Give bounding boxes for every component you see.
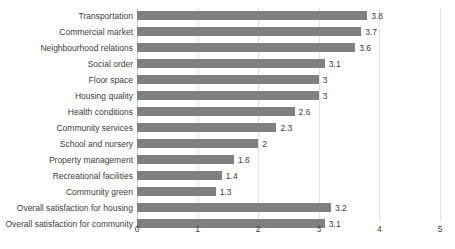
x-tick-label: 0 xyxy=(135,222,140,236)
bar-value-label: 3.7 xyxy=(365,24,377,40)
category-label: Neighbourhood relations xyxy=(0,40,133,56)
bar-row: 3 xyxy=(137,72,440,88)
bar xyxy=(137,43,355,52)
bar xyxy=(137,75,319,84)
category-label: Community services xyxy=(0,120,133,136)
bar-value-label: 1.3 xyxy=(220,184,232,200)
bar xyxy=(137,187,216,196)
category-label: Transportation xyxy=(0,8,133,24)
bar xyxy=(137,155,234,164)
category-label: Health conditions xyxy=(0,104,133,120)
x-tick-label: 1 xyxy=(195,222,200,236)
bar-value-label: 3.6 xyxy=(359,40,371,56)
bar-value-label: 3 xyxy=(323,88,328,104)
category-label: Floor space xyxy=(0,72,133,88)
plot-area: 3.83.73.63.1332.62.321.61.41.33.23.1 xyxy=(137,8,440,221)
category-label: Community green xyxy=(0,184,133,200)
bar-row: 3.7 xyxy=(137,24,440,40)
bar-row: 2 xyxy=(137,136,440,152)
category-label: Social order xyxy=(0,56,133,72)
bar-row: 3.1 xyxy=(137,56,440,72)
bar-value-label: 3 xyxy=(323,72,328,88)
bar-row: 2.6 xyxy=(137,104,440,120)
category-label: Recreational facilities xyxy=(0,168,133,184)
bar xyxy=(137,27,361,36)
value-axis-labels: 012345 xyxy=(137,222,440,242)
bar-value-label: 3.2 xyxy=(335,200,347,216)
bar-value-label: 2.3 xyxy=(280,120,292,136)
category-label: School and nursery xyxy=(0,136,133,152)
category-axis-labels: TransportationCommercial marketNeighbour… xyxy=(0,8,133,232)
bar-row: 3.2 xyxy=(137,200,440,216)
x-tick-label: 4 xyxy=(377,222,382,236)
bar-value-label: 2.6 xyxy=(299,104,311,120)
bar-row: 2.3 xyxy=(137,120,440,136)
bar-value-label: 1.4 xyxy=(226,168,238,184)
category-label: Housing quality xyxy=(0,88,133,104)
bar xyxy=(137,123,276,132)
bar-row: 3.6 xyxy=(137,40,440,56)
bar-row: 3.8 xyxy=(137,8,440,24)
gridline-5 xyxy=(440,8,441,221)
bar xyxy=(137,91,319,100)
bar-rows: 3.83.73.63.1332.62.321.61.41.33.23.1 xyxy=(137,8,440,232)
bar xyxy=(137,11,367,20)
category-label: Property management xyxy=(0,152,133,168)
bar-row: 3 xyxy=(137,88,440,104)
x-tick-label: 3 xyxy=(316,222,321,236)
bar xyxy=(137,203,331,212)
bar xyxy=(137,171,222,180)
bar-row: 1.3 xyxy=(137,184,440,200)
x-tick-label: 2 xyxy=(256,222,261,236)
bar-value-label: 2 xyxy=(262,136,267,152)
bar-value-label: 1.6 xyxy=(238,152,250,168)
bar-value-label: 3.1 xyxy=(329,56,341,72)
bar xyxy=(137,139,258,148)
category-label: Commercial market xyxy=(0,24,133,40)
category-label: Overall satisfaction for housing xyxy=(0,200,133,216)
bar-chart: TransportationCommercial marketNeighbour… xyxy=(0,0,455,249)
x-tick-label: 5 xyxy=(438,222,443,236)
bar-value-label: 3.8 xyxy=(371,8,383,24)
bar-row: 1.4 xyxy=(137,168,440,184)
category-label: Overall satisfaction for community xyxy=(0,216,133,232)
bar xyxy=(137,59,325,68)
bar-row: 1.6 xyxy=(137,152,440,168)
bar xyxy=(137,107,295,116)
